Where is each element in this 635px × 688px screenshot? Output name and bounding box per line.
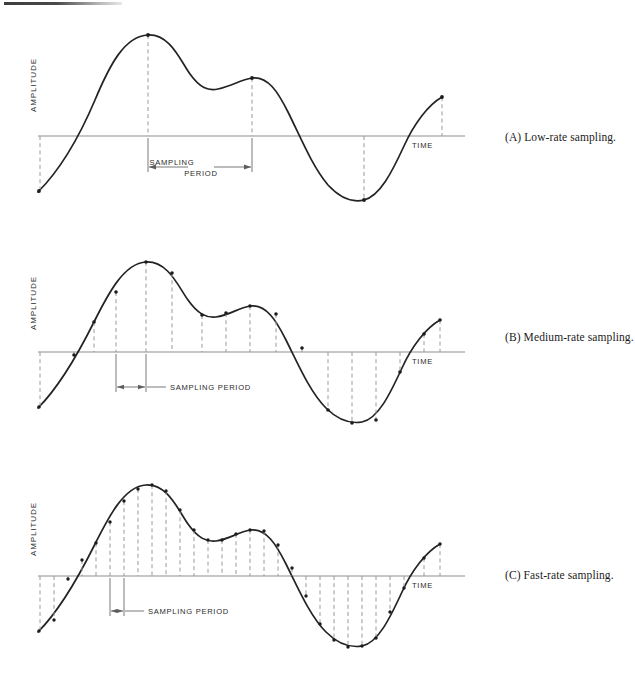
panel-b-caption: (B) Medium-rate sampling.: [505, 331, 634, 343]
panel-c-sample-point: [422, 556, 425, 559]
panel-c-waveform: [38, 485, 440, 647]
panel-b-amplitude-label: AMPLITUDE: [29, 276, 38, 330]
panel-a-plot: AMPLITUDE TIME SAMPLING PERIOD: [0, 0, 500, 230]
panel-c-sample-point: [52, 618, 55, 621]
panel-a-sample-point: [250, 76, 254, 80]
panel-c-sample-point: [122, 499, 125, 502]
panel-c-sample-point: [66, 577, 69, 580]
panel-b-sample-point: [37, 405, 41, 409]
panel-c-amplitude-label: AMPLITUDE: [29, 502, 38, 556]
panel-c-sample-point: [290, 566, 293, 569]
figure-page: AMPLITUDE TIME SAMPLING PERIOD (A) Low-r…: [0, 0, 635, 688]
panel-c-sample-point: [346, 645, 349, 648]
panel-c-sample-point: [192, 528, 195, 531]
panel-b-sample-point: [274, 312, 278, 316]
panel-b-sample-point: [72, 353, 76, 357]
panel-c-sample-point: [150, 483, 153, 486]
panel-c-caption: (C) Fast-rate sampling.: [505, 569, 614, 581]
panel-c-sampling-period-bracket: [110, 578, 144, 616]
panel-c-sample-point: [332, 638, 335, 641]
panel-a-amplitude-label: AMPLITUDE: [29, 58, 38, 112]
panel-c-sample-point: [94, 541, 97, 544]
panel-b-time-label: TIME: [412, 357, 433, 366]
panel-b-sample-point: [374, 418, 378, 422]
panel-b-sample-point: [350, 421, 354, 425]
panel-a-waveform: [38, 35, 442, 201]
panel-b-sample-point: [224, 311, 228, 315]
panel-b-sample-point: [200, 313, 204, 317]
panel-c-sample-point: [304, 594, 307, 597]
panel-c-sample-point: [360, 644, 363, 647]
panel-b-sample-point: [248, 304, 252, 308]
panel-b-plot: AMPLITUDE TIME SAMPLING PERIOD: [0, 230, 500, 460]
panel-c-sample-point: [374, 636, 377, 639]
panel-c-plot: AMPLITUDE TIME SAMPLING PERIOD: [0, 458, 500, 688]
panel-c-sample-point: [388, 610, 391, 613]
panel-c-sample-point: [318, 622, 321, 625]
panel-c-fast-rate: AMPLITUDE TIME SAMPLING PERIOD (C) Fast-…: [0, 458, 635, 688]
panel-b-sampling-period-bracket: [116, 354, 166, 392]
panel-b-waveform: [38, 262, 440, 423]
panel-b-sample-point: [438, 318, 442, 322]
panel-c-sample-point: [80, 558, 83, 561]
panel-c-sampling-period-label: SAMPLING PERIOD: [148, 607, 229, 616]
panel-a-sample-point: [362, 198, 366, 202]
panel-c-sample-point: [108, 520, 111, 523]
panel-b-sample-point: [300, 346, 304, 350]
panel-a-low-rate: AMPLITUDE TIME SAMPLING PERIOD (A) Low-r…: [0, 0, 635, 230]
panel-b-sample-point: [326, 408, 330, 412]
panel-c-sample-point: [262, 529, 265, 532]
panel-a-time-label: TIME: [412, 141, 433, 150]
panel-c-sample-point: [248, 528, 251, 531]
panel-a-period-label: PERIOD: [184, 169, 217, 178]
panel-c-time-label: TIME: [412, 581, 433, 590]
panel-c-sample-point: [164, 489, 167, 492]
panel-a-sample-point: [146, 33, 150, 37]
panel-a-sampling-label: SAMPLING: [150, 158, 195, 167]
panel-b-medium-rate: AMPLITUDE TIME SAMPLING PERIOD (B) Mediu…: [0, 230, 635, 460]
panel-a-caption: (A) Low-rate sampling.: [505, 131, 616, 143]
panel-b-sample-point: [144, 260, 148, 264]
panel-b-sample-point: [422, 332, 426, 336]
panel-c-sample-point: [220, 538, 223, 541]
panel-b-sample-point: [114, 290, 118, 294]
panel-c-sample-point: [136, 487, 139, 490]
panel-b-sample-point: [92, 320, 96, 324]
panel-c-sample-point: [438, 542, 441, 545]
panel-c-sample-point: [206, 538, 209, 541]
panel-c-sample-point: [178, 508, 181, 511]
panel-c-sample-point: [37, 629, 40, 632]
panel-c-sample-point: [402, 586, 405, 589]
panel-b-sampling-period-label: SAMPLING PERIOD: [170, 383, 251, 392]
panel-b-sample-point: [398, 370, 402, 374]
panel-a-sample-point: [440, 95, 444, 99]
panel-a-sample-point: [37, 189, 41, 193]
panel-b-sample-point: [170, 271, 174, 275]
panel-c-sample-point: [276, 543, 279, 546]
panel-c-sample-point: [234, 532, 237, 535]
